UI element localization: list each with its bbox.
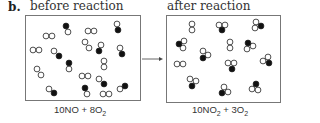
oxygen-atom: [174, 61, 180, 67]
nitrogen-atom: [176, 41, 182, 47]
molecule-o2: [30, 47, 42, 53]
oxygen-atom: [51, 48, 57, 54]
nitrogen-atom: [96, 48, 102, 54]
oxygen-atom: [180, 61, 186, 67]
oxygen-atom: [227, 39, 233, 45]
oxygen-atom: [231, 60, 237, 66]
molecule-no: [63, 23, 71, 35]
molecule-no: [96, 76, 107, 87]
oxygen-atom: [85, 28, 91, 34]
nitrogen-atom: [229, 66, 235, 72]
molecule-no: [82, 85, 90, 97]
nitrogen-atom: [63, 23, 69, 29]
oxygen-atom: [96, 76, 102, 82]
after-equation: 10NO2 + 3O2: [192, 104, 248, 117]
oxygen-atom: [86, 45, 92, 51]
molecule-o2: [82, 39, 92, 51]
oxygen-atom: [82, 39, 88, 45]
oxygen-atom: [227, 45, 233, 51]
nitrogen-atom: [245, 40, 251, 46]
molecule-o2: [85, 28, 97, 34]
molecule-no: [66, 60, 72, 72]
molecule-no2: [176, 38, 187, 51]
oxygen-atom: [225, 89, 231, 95]
nitrogen-atom: [189, 83, 195, 89]
oxygen-atom: [265, 54, 271, 60]
molecule-no2: [216, 22, 228, 33]
molecule-no2: [244, 40, 256, 52]
oxygen-atom: [117, 45, 123, 51]
molecule-o2: [43, 33, 55, 39]
molecule-no2: [200, 48, 211, 61]
eq-term-o2: 8O: [90, 104, 103, 115]
nitrogen-atom: [82, 85, 88, 91]
nitrogen-atom: [119, 51, 125, 57]
oxygen-atom: [189, 21, 195, 27]
molecule-no: [46, 86, 57, 96]
oxygen-atom: [36, 47, 42, 53]
nitrogen-atom: [122, 83, 128, 89]
molecule-no: [51, 48, 62, 59]
oxygen-atom: [100, 91, 106, 97]
oxygen-atom: [66, 66, 72, 72]
reaction-arrow-icon: [142, 57, 163, 61]
eq-plus: +: [79, 104, 90, 115]
oxygen-atom: [101, 58, 107, 64]
oxygen-atom: [114, 21, 120, 27]
molecule-no2: [252, 19, 264, 31]
molecule-no: [96, 42, 104, 54]
molecule-no2: [219, 84, 231, 96]
oxygen-atom: [253, 19, 259, 25]
after-molecules: [174, 19, 272, 96]
before-equation: 10NO + 8O2: [54, 104, 106, 117]
molecule-o2: [100, 91, 112, 97]
oxygen-atom: [98, 42, 104, 48]
oxygen-atom: [46, 86, 52, 92]
oxygen-atom: [221, 84, 227, 90]
eq-term-no: 10NO: [54, 104, 79, 115]
eq-subscript: 2: [244, 110, 248, 117]
nitrogen-atom: [253, 81, 259, 87]
oxygen-atom: [91, 28, 97, 34]
molecule-no2: [260, 54, 272, 66]
oxygen-atom: [84, 91, 90, 97]
oxygen-atom: [193, 78, 199, 84]
molecule-o2: [174, 61, 186, 67]
molecule-no: [117, 45, 125, 57]
oxygen-atom: [49, 33, 55, 39]
oxygen-atom: [79, 73, 85, 79]
nitrogen-atom: [115, 27, 121, 33]
oxygen-atom: [101, 64, 107, 70]
nitrogen-atom: [219, 90, 225, 96]
eq-subscript: 2: [102, 110, 106, 117]
oxygen-atom: [189, 27, 195, 33]
oxygen-atom: [249, 86, 255, 92]
oxygen-atom: [34, 66, 40, 72]
oxygen-atom: [252, 25, 258, 31]
nitrogen-atom: [56, 53, 62, 59]
oxygen-atom: [255, 87, 261, 93]
oxygen-atom: [43, 33, 49, 39]
oxygen-atom: [244, 46, 250, 52]
oxygen-atom: [85, 73, 91, 79]
molecule-no2: [249, 81, 261, 93]
oxygen-atom: [200, 48, 206, 54]
nitrogen-atom: [101, 81, 107, 87]
oxygen-atom: [187, 76, 193, 82]
oxygen-atom: [30, 47, 36, 53]
molecule-o2: [34, 66, 44, 78]
nitrogen-atom: [258, 23, 264, 29]
eq-term-o2: 3O: [232, 104, 245, 115]
molecule-o2: [227, 39, 233, 51]
molecule-o2: [189, 21, 195, 33]
nitrogen-atom: [66, 60, 72, 66]
eq-term-no2: 10NO: [192, 104, 217, 115]
molecule-no: [114, 21, 121, 33]
molecule-no: [117, 83, 128, 92]
nitrogen-atom: [219, 27, 225, 33]
molecule-o2: [79, 73, 91, 79]
oxygen-atom: [38, 72, 44, 78]
nitrogen-atom: [200, 55, 206, 61]
oxygen-atom: [106, 91, 112, 97]
oxygen-atom: [225, 60, 231, 66]
